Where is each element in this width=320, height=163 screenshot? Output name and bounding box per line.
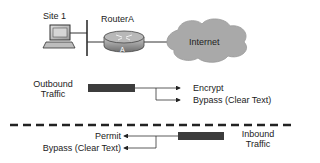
outbound-label: Outbound Traffic bbox=[28, 79, 78, 99]
outbound-traffic-bar bbox=[88, 84, 135, 92]
computer-icon bbox=[43, 25, 75, 48]
inbound-traffic-bar bbox=[178, 132, 224, 140]
inbound-bypass-arrow bbox=[124, 136, 156, 148]
outbound-bypass-arrow bbox=[156, 88, 180, 100]
outbound-bypass-label: Bypass (Clear Text) bbox=[193, 95, 271, 105]
permit-label: Permit bbox=[40, 131, 121, 141]
site-label: Site 1 bbox=[43, 11, 66, 21]
cloud-label: Internet bbox=[189, 37, 220, 47]
router-badge: A bbox=[120, 45, 125, 55]
router-label: RouterA bbox=[101, 14, 134, 24]
inbound-bypass-label: Bypass (Clear Text) bbox=[20, 143, 121, 153]
inbound-label: Inbound Traffic bbox=[233, 129, 283, 149]
encrypt-label: Encrypt bbox=[193, 83, 224, 93]
